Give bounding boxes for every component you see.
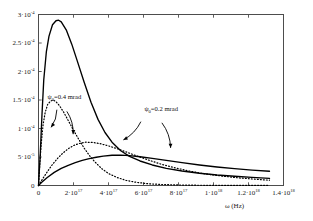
annotation-psi-0-2-mrad: ψ0=0.2 mrad xyxy=(144,105,178,114)
y-tick-label-6: 3·10-4 xyxy=(18,10,35,19)
curve-solid-tall-peak xyxy=(39,20,270,185)
y-tick-label-2: 1·10-4 xyxy=(18,124,35,133)
x-tick-label-2: 4·1017 xyxy=(100,188,118,197)
y-tick-label-3: 1.5·10-4 xyxy=(13,95,36,104)
y-axis-tick-labels: 05·10-51·10-41.5·10-42·10-42.5·10-43·10-… xyxy=(13,10,36,190)
x-tick-label-0: 0 xyxy=(37,189,41,197)
y-tick-label-0: 0 xyxy=(31,182,35,190)
x-tick-label-5: 1·1018 xyxy=(205,188,223,197)
plot-area: 02·10174·10176·10178·10171·10181.2·10181… xyxy=(0,0,313,221)
arrowhead-psi-0-2-mrad-1 xyxy=(169,144,173,148)
x-tick-label-6: 1.2·1018 xyxy=(237,188,260,197)
arrowhead-psi-0-4-mrad-1 xyxy=(71,130,75,134)
x-axis-tick-labels: 02·10174·10176·10178·10171·10181.2·10181… xyxy=(37,188,296,197)
y-tick-label-4: 2·10-4 xyxy=(18,67,35,76)
y-tick-label-1: 5·10-5 xyxy=(18,152,35,161)
x-tick-label-1: 2·1017 xyxy=(65,188,83,197)
chart-figure: 02·10174·10176·10178·10171·10181.2·10181… xyxy=(0,0,313,221)
annotation-psi-0-4-mrad: ψ0=0.4 mrad xyxy=(48,93,82,102)
curve-dotted-early-peak xyxy=(39,100,270,186)
annotation-labels: ψ0=0.4 mradψ0=0.2 mrad xyxy=(48,93,179,115)
y-tick-label-5: 2.5·10-4 xyxy=(13,38,36,47)
x-tick-label-3: 6·1017 xyxy=(135,188,153,197)
arrowhead-psi-0-2-mrad-0 xyxy=(123,136,128,140)
x-tick-label-4: 8·1017 xyxy=(170,188,188,197)
x-tick-label-7: 1.4·1018 xyxy=(272,188,295,197)
data-curves xyxy=(39,20,270,185)
curve-solid-broad-low xyxy=(39,155,270,185)
x-axis-title: ω (Hz) xyxy=(225,202,245,210)
